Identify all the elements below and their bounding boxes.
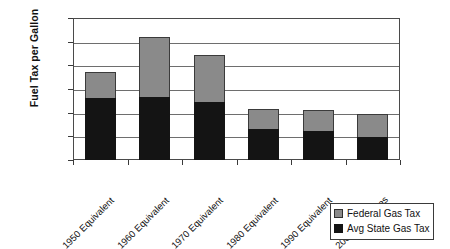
- stacked-bar[interactable]: [357, 114, 388, 160]
- stacked-bar[interactable]: [303, 110, 334, 160]
- stacked-bar[interactable]: [248, 109, 279, 160]
- bar-segment-federal-gas-tax[interactable]: [303, 110, 334, 131]
- bar-segment-federal-gas-tax[interactable]: [194, 55, 225, 102]
- bar-segment-federal-gas-tax[interactable]: [248, 109, 279, 129]
- bar-segment-federal-gas-tax[interactable]: [85, 72, 116, 98]
- bar-slot: [346, 18, 401, 160]
- bar-segment-avg-state-gas-tax[interactable]: [85, 98, 116, 160]
- legend-item-label: Avg State Gas Tax: [347, 223, 429, 234]
- stacked-bar[interactable]: [194, 55, 225, 160]
- x-axis-tick-mark: [346, 160, 347, 165]
- legend-color-swatch: [334, 224, 343, 233]
- bar-segment-federal-gas-tax[interactable]: [139, 37, 170, 97]
- stacked-bar[interactable]: [85, 72, 116, 160]
- stacked-bar[interactable]: [139, 37, 170, 160]
- x-axis-tick-mark: [128, 160, 129, 165]
- x-axis-tick-mark: [291, 160, 292, 165]
- x-axis-category-label: 1960 Equivalent: [115, 195, 171, 249]
- bar-slot: [182, 18, 237, 160]
- fuel-tax-stacked-bar-chart: Fuel Tax per Gallon $1.20$1.00$0.80$0.60…: [0, 0, 450, 249]
- legend-item[interactable]: Avg State Gas Tax: [334, 221, 429, 236]
- x-axis-category-label: 1970 Equivalent: [169, 195, 225, 249]
- bar-segment-avg-state-gas-tax[interactable]: [248, 129, 279, 160]
- chart-legend: Federal Gas TaxAvg State Gas Tax: [330, 203, 434, 240]
- legend-color-swatch: [334, 209, 343, 218]
- bar-segment-avg-state-gas-tax[interactable]: [303, 131, 334, 160]
- bar-slot: [291, 18, 346, 160]
- bar-slot: [128, 18, 183, 160]
- x-axis-tick-mark: [73, 160, 74, 165]
- legend-item[interactable]: Federal Gas Tax: [334, 206, 429, 221]
- bar-segment-avg-state-gas-tax[interactable]: [194, 102, 225, 160]
- x-axis-tick-mark: [400, 160, 401, 165]
- bar-slot: [237, 18, 292, 160]
- x-axis-category-label: 1950 Equivalent: [60, 195, 116, 249]
- bar-slot: [73, 18, 128, 160]
- bar-segment-avg-state-gas-tax[interactable]: [357, 137, 388, 160]
- x-axis-tick-mark: [182, 160, 183, 165]
- y-axis-title: Fuel Tax per Gallon: [28, 0, 40, 128]
- x-axis-category-label: 1990 Equivalent: [278, 195, 334, 249]
- bars-group: [73, 18, 400, 160]
- bar-segment-avg-state-gas-tax[interactable]: [139, 97, 170, 160]
- legend-item-label: Federal Gas Tax: [347, 208, 420, 219]
- x-axis-tick-mark: [237, 160, 238, 165]
- x-axis-category-label: 1980 Equivalent: [224, 195, 280, 249]
- bar-segment-federal-gas-tax[interactable]: [357, 114, 388, 136]
